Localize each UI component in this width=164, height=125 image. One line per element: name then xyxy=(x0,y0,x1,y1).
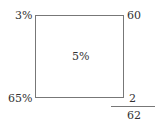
top-left-percent: 3% xyxy=(15,10,32,22)
top-right-ratio: 60 xyxy=(127,10,141,22)
total-sum: 62 xyxy=(127,110,141,122)
center-mean-percent: 5% xyxy=(72,51,89,63)
bottom-right-ratio: 2 xyxy=(129,93,136,105)
sum-rule xyxy=(111,106,155,107)
bottom-left-percent: 65% xyxy=(8,93,32,105)
